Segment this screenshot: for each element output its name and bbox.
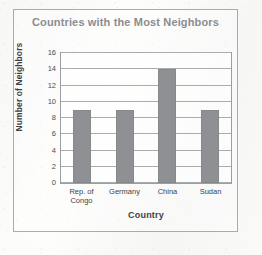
bar	[116, 110, 134, 183]
y-axis-tick-label: 0	[52, 178, 56, 187]
x-axis-title: Country	[60, 210, 232, 220]
chart-title: Countries with the Most Neighbors	[13, 16, 238, 28]
bar	[201, 110, 219, 183]
x-axis-category-labels: Rep. ofCongoGermanyChinaSudan	[60, 187, 232, 205]
y-axis-tick-label: 6	[52, 129, 56, 138]
y-axis-tick-label: 10	[48, 96, 56, 105]
x-axis-category-label: Rep. ofCongo	[60, 187, 103, 205]
x-axis-category-label: Germany	[103, 187, 146, 205]
bar-slot	[61, 53, 104, 183]
y-axis-tick-label: 4	[52, 145, 56, 154]
bar-slot	[104, 53, 147, 183]
x-axis-category-label: Sudan	[189, 187, 232, 205]
x-axis-category-label: China	[146, 187, 189, 205]
y-axis-tick-label: 2	[52, 161, 56, 170]
y-axis-tick-label: 12	[48, 80, 56, 89]
y-axis-tick-label: 8	[52, 113, 56, 122]
bar	[158, 69, 176, 183]
scanned-page-background: Countries with the Most Neighbors Number…	[0, 0, 262, 255]
y-axis-tick-label: 14	[48, 64, 56, 73]
y-axis-tick-label: 16	[48, 48, 56, 57]
bar-slot	[146, 53, 189, 183]
bar-slot	[189, 53, 232, 183]
y-axis-title: Number of Neighbors	[14, 37, 24, 137]
plot-area: 0246810121416	[60, 52, 232, 184]
bar	[73, 110, 91, 183]
bar-series	[61, 53, 231, 183]
